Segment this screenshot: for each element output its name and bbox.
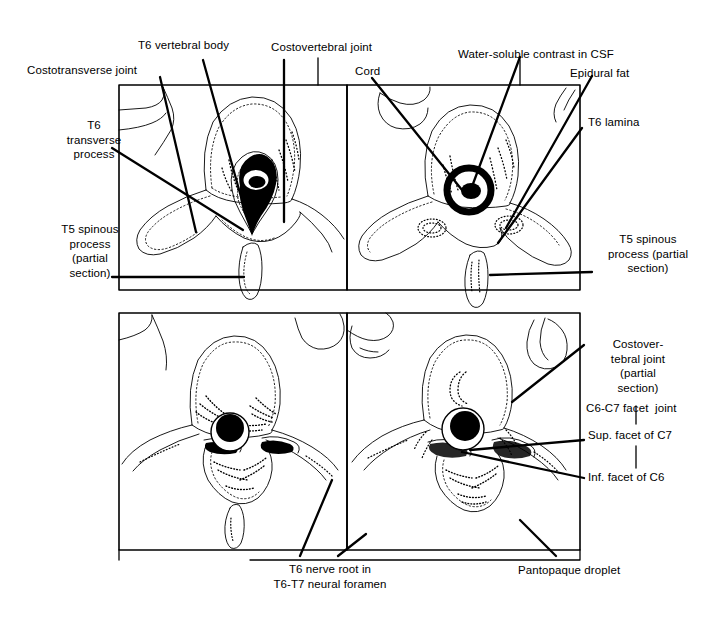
label-t6-lamina: T6 lamina: [588, 115, 688, 130]
label-t5-spinous-process-right: T5 spinous process (partial section): [594, 232, 702, 276]
t5-spinous-bottom-left: [225, 504, 244, 548]
panel-bottom-left-anatomy: [119, 314, 344, 504]
label-costovertebral-joint-partial: Costover- tebral joint (partial section): [586, 337, 690, 395]
label-sup-facet-c7: Sup. facet of C7: [588, 428, 707, 443]
label-t6-vertebral-body: T6 vertebral body: [138, 38, 278, 53]
t5-spinous-top-right: [465, 251, 488, 308]
label-inf-facet-c6: Inf. facet of C6: [588, 470, 707, 485]
label-t5-spinous-process-left: T5 spinous process (partial section): [40, 222, 140, 280]
leader-lines: [112, 57, 592, 556]
label-costovertebral-joint: Costovertebral joint: [271, 40, 411, 55]
label-epidural-fat: Epidural fat: [570, 66, 680, 81]
label-t6-transverse-process: T6 transverse process: [46, 118, 142, 162]
figure-root: Costotransverse joint T6 vertebral body …: [0, 0, 707, 620]
label-water-soluble-contrast: Water-soluble contrast in CSF: [458, 47, 648, 62]
label-costotransverse-joint: Costotransverse joint: [27, 63, 187, 78]
label-c6-c7-facet-joint: C6-C7 facet joint: [586, 401, 706, 416]
label-cord: Cord: [355, 64, 415, 79]
canal-bottom-right: [442, 408, 484, 450]
panel-frames: [119, 85, 580, 550]
canal-bottom-left: [211, 413, 249, 451]
label-pantopaque-droplet: Pantopaque droplet: [518, 563, 678, 578]
figure-artwork: [0, 0, 707, 620]
label-t6-nerve-root: T6 nerve root in T6-T7 neural foramen: [250, 562, 410, 591]
panel-top-left-anatomy: [119, 87, 344, 255]
t5-spinous-top-left: [239, 243, 262, 300]
